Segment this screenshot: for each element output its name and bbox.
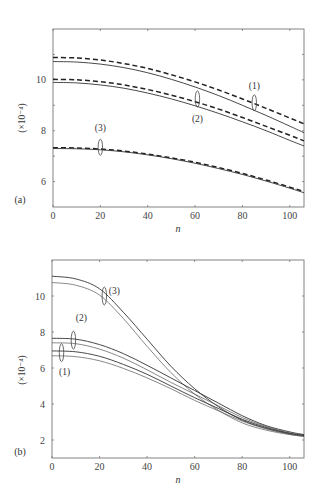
y-tick-label: 6	[41, 176, 46, 187]
annotation-ellipse	[71, 331, 75, 349]
series-line-2-dashed	[53, 79, 304, 141]
annotation-ellipse	[252, 95, 256, 111]
x-tick-label: 0	[50, 461, 55, 472]
x-axis-label-b: n	[176, 474, 181, 485]
annotation-ellipse	[98, 139, 102, 155]
annotation-label: (3)	[95, 123, 106, 134]
panel-label-a: (a)	[14, 194, 25, 206]
x-tick-label: 0	[51, 210, 56, 221]
x-tick-label: 20	[95, 210, 105, 221]
annotation-ellipse	[195, 91, 199, 107]
x-tick-label: 100	[282, 461, 297, 472]
series-a	[53, 57, 304, 192]
series-line-2-solid	[52, 338, 304, 434]
series-line-3-solid	[52, 276, 304, 435]
figure: 0204060801006810 (1)(2)(3) n (×10⁻⁴) (a)…	[0, 0, 322, 503]
annotation-label: (1)	[249, 81, 260, 92]
series-line-1-solid	[53, 62, 304, 133]
series-line-3-dashed	[53, 148, 304, 192]
x-tick-label: 80	[237, 461, 247, 472]
series-line-1-dashed	[53, 57, 304, 123]
x-axis-label-a: n	[176, 223, 181, 234]
y-tick-label: 6	[40, 363, 45, 374]
x-tick-label: 100	[282, 210, 297, 221]
y-tick-label: 2	[40, 435, 45, 446]
panel-label-b: (b)	[14, 446, 26, 458]
panel-b: 020406080100246810 (1)(2)(3) n (×10⁻⁴) (…	[14, 260, 304, 485]
x-tick-label: 60	[190, 210, 200, 221]
annotation-label: (1)	[59, 367, 70, 378]
annotations-a: (1)(2)(3)	[95, 81, 260, 156]
y-tick-label: 4	[40, 399, 45, 410]
x-tick-label: 80	[237, 210, 247, 221]
series-b	[52, 276, 304, 436]
annotation-label: (2)	[192, 114, 203, 125]
y-tick-label: 10	[36, 74, 46, 85]
y-axis-label-a: (×10⁻⁴)	[17, 103, 28, 133]
annotation-ellipse	[59, 344, 63, 362]
series-line-1-solid-thin	[52, 356, 304, 437]
series-line-2-solid	[53, 82, 304, 146]
series-line-2-solid-thin	[52, 343, 304, 435]
ticks-b: 020406080100246810	[35, 260, 304, 472]
y-axis-label-b: (×10⁻⁴)	[17, 355, 28, 385]
series-line-3-solid	[53, 149, 304, 193]
annotation-ellipse	[102, 287, 106, 305]
annotation-label: (3)	[109, 286, 120, 297]
x-tick-label: 20	[95, 461, 105, 472]
series-line-3-solid-thin	[52, 283, 304, 437]
x-tick-label: 40	[142, 461, 152, 472]
y-tick-label: 8	[41, 125, 46, 136]
x-tick-label: 40	[143, 210, 153, 221]
y-tick-label: 10	[35, 291, 45, 302]
x-tick-label: 60	[190, 461, 200, 472]
y-tick-label: 8	[40, 327, 45, 338]
series-line-1-solid	[52, 351, 304, 436]
panel-a: 0204060801006810 (1)(2)(3) n (×10⁻⁴) (a)	[14, 29, 304, 234]
annotation-label: (2)	[76, 313, 87, 324]
